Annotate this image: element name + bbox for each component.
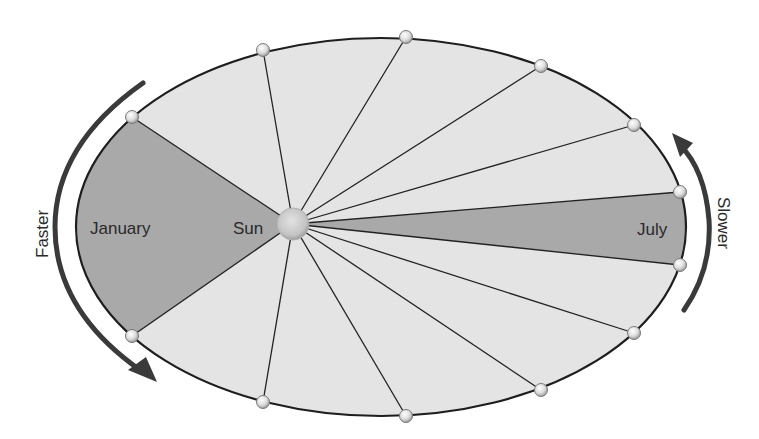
sun-icon (277, 208, 309, 240)
planet-position-icon (126, 330, 139, 343)
planet-position-icon (126, 111, 139, 124)
planet-position-icon (535, 60, 548, 73)
planet-position-icon (628, 119, 641, 132)
sun-label: Sun (233, 219, 263, 238)
planet-position-icon (535, 384, 548, 397)
planet-position-icon (400, 410, 413, 423)
january-label: January (90, 219, 151, 238)
planet-position-icon (400, 31, 413, 44)
july-label: July (637, 220, 668, 239)
planet-position-icon (674, 186, 687, 199)
slower-label: Slower (714, 197, 733, 249)
faster-label: Faster (33, 209, 52, 258)
planet-position-icon (628, 327, 641, 340)
planet-position-icon (257, 396, 270, 409)
planet-position-icon (257, 44, 270, 57)
kepler-orbit-diagram: January Sun July Faster Slower (0, 0, 759, 439)
planet-position-icon (674, 259, 687, 272)
